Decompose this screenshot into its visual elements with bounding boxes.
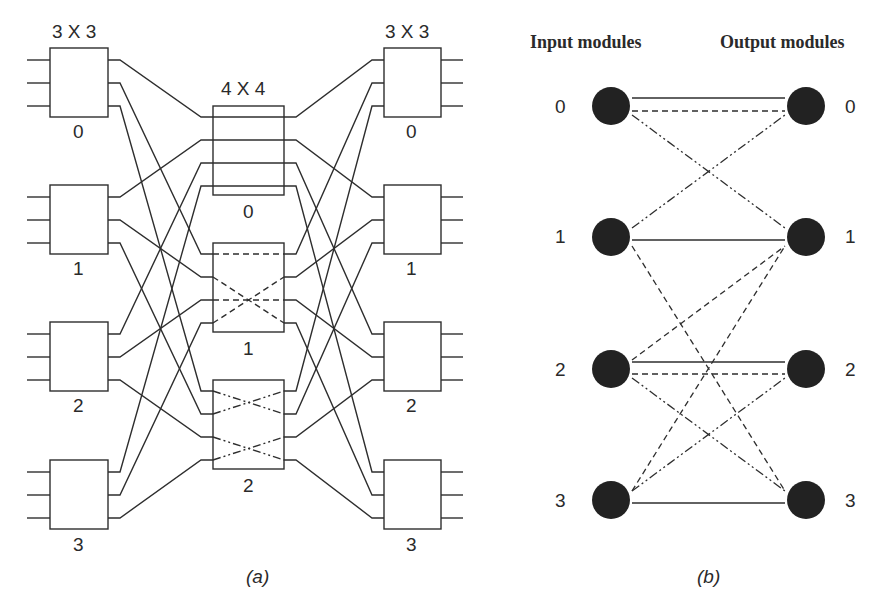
panel-a-clos-network (27, 48, 463, 529)
output-module-node-1 (787, 218, 825, 256)
output-node-label-2: 2 (845, 359, 856, 380)
input-switch-3x3-3 (50, 460, 108, 529)
input-module-node-2 (592, 350, 630, 388)
input-module-label-1: 1 (73, 258, 84, 279)
middle-stage-label: 4 X 4 (221, 78, 266, 99)
input-module-label-0: 0 (73, 121, 84, 142)
output-stage-label: 3 X 3 (385, 21, 429, 42)
output-node-label-3: 3 (845, 490, 856, 511)
middle-switch-4x4-1 (213, 243, 284, 332)
middle-module-label-1: 1 (243, 338, 254, 359)
output-module-label-3: 3 (406, 534, 417, 555)
middle-switch-4x4-2 (213, 380, 284, 469)
input-stage-label: 3 X 3 (52, 21, 96, 42)
output-modules-header: Output modules (720, 32, 845, 52)
output-node-label-1: 1 (845, 226, 856, 247)
input-switch-3x3-1 (50, 185, 108, 254)
interstage-link (108, 163, 213, 334)
output-module-node-2 (787, 350, 825, 388)
input-module-node-1 (592, 218, 630, 256)
input-module-label-2: 2 (73, 395, 84, 416)
output-module-label-2: 2 (406, 395, 417, 416)
output-switch-3x3-2 (384, 322, 441, 391)
interstage-link (108, 323, 213, 495)
interstage-link (284, 323, 384, 495)
output-module-label-0: 0 (406, 121, 417, 142)
output-switch-3x3-1 (384, 185, 441, 254)
interstage-link (108, 140, 213, 197)
panel-a-caption: (a) (246, 566, 269, 587)
interstage-link (108, 60, 213, 117)
input-module-label-3: 3 (73, 534, 84, 555)
panel-b-caption: (b) (697, 566, 720, 587)
middle-module-label-0: 0 (243, 201, 254, 222)
output-module-label-1: 1 (406, 258, 417, 279)
output-node-label-0: 0 (845, 96, 856, 117)
output-switch-3x3-3 (384, 460, 441, 529)
input-node-label-3: 3 (555, 490, 566, 511)
input-node-label-0: 0 (555, 96, 566, 117)
input-module-node-0 (592, 87, 630, 125)
input-switch-3x3-2 (50, 322, 108, 391)
edge-dashed-2-1 (632, 246, 785, 360)
middle-module-label-2: 2 (243, 475, 254, 496)
input-module-node-3 (592, 481, 630, 519)
clos-network-figure: 3 X 3 4 X 4 3 X 3 0 1 2 3 0 1 2 0 1 2 3 … (0, 0, 880, 606)
input-switch-3x3-0 (50, 48, 108, 117)
output-switch-3x3-0 (384, 48, 441, 117)
panel-b-connection-graph (592, 87, 825, 519)
interstage-link (108, 460, 213, 518)
input-node-label-2: 2 (555, 359, 566, 380)
middle-switch-4x4-0 (213, 106, 284, 195)
input-node-label-1: 1 (555, 226, 566, 247)
interstage-link (108, 186, 213, 472)
output-module-node-3 (787, 481, 825, 519)
input-modules-header: Input modules (530, 32, 642, 52)
output-module-node-0 (787, 87, 825, 125)
